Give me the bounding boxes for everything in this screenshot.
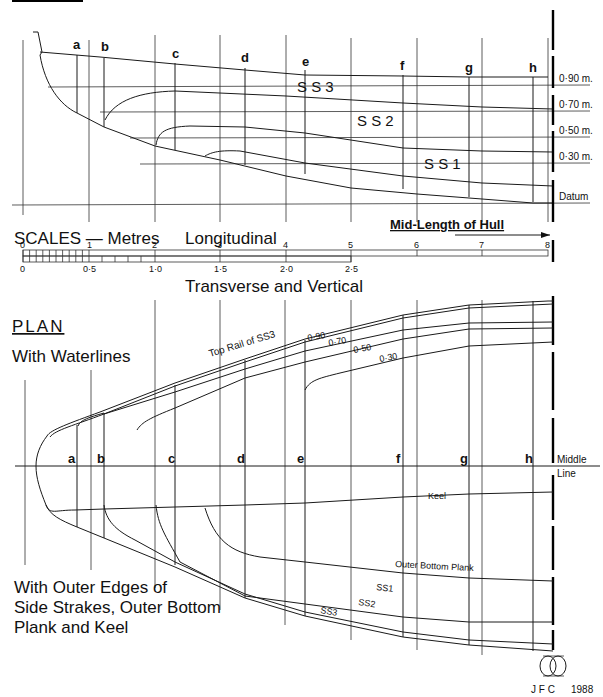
svg-text:7: 7 xyxy=(479,240,484,250)
ss2-plan-label: SS2 xyxy=(358,597,376,609)
transverse-scale-bar xyxy=(23,256,351,262)
monogram-right-ring-icon xyxy=(550,656,566,676)
station-b: b xyxy=(101,39,109,54)
middle-line-label-1: Middle xyxy=(557,454,587,465)
wl-090-label: 0·90 m. xyxy=(559,73,593,84)
ss1-label: S S 1 xyxy=(424,155,461,172)
keel-line xyxy=(46,492,553,511)
svg-text:3: 3 xyxy=(217,240,222,250)
station-a: a xyxy=(73,37,81,52)
svg-text:2: 2 xyxy=(152,240,157,250)
waterline-030 xyxy=(305,342,553,390)
svg-text:4: 4 xyxy=(283,240,288,250)
station-d: d xyxy=(241,50,249,65)
svg-text:0·5: 0·5 xyxy=(83,264,96,274)
svg-text:2·0: 2·0 xyxy=(280,264,293,274)
station-f: f xyxy=(400,58,405,73)
station-c: c xyxy=(172,46,179,61)
signature-mark: J F C 1988 xyxy=(531,656,594,695)
bottom-plank-edge xyxy=(205,151,553,186)
waterline-090 xyxy=(50,304,553,437)
station-e: e xyxy=(302,54,309,69)
longitudinal-scale-bar xyxy=(23,250,548,256)
station-h: h xyxy=(529,60,537,75)
outer-bottom-plank-line xyxy=(205,508,553,581)
midlength-label: Mid-Length of Hull xyxy=(390,217,504,232)
svg-text:2·5: 2·5 xyxy=(345,264,358,274)
keel-label: Keel xyxy=(428,491,446,501)
ss2-line xyxy=(104,505,553,644)
transverse-tick-labels: 0 0·5 1·0 1·5 2·0 2·5 xyxy=(20,264,358,274)
ss2-upper-edge xyxy=(105,91,553,120)
wl-050-plan-label: 0·50 xyxy=(353,342,372,355)
arrow-right-icon xyxy=(541,232,550,238)
wl-030-label: 0·30 m. xyxy=(559,151,593,162)
svg-text:a: a xyxy=(68,451,76,466)
station-g: g xyxy=(465,60,473,75)
svg-text:h: h xyxy=(525,451,533,466)
plan-stem xyxy=(36,436,47,505)
signature-initials: J F C xyxy=(531,684,555,695)
outer-bottom-plank-label: Outer Bottom Plank xyxy=(395,559,474,573)
svg-text:f: f xyxy=(396,451,401,466)
longitudinal-label: Longitudinal xyxy=(185,229,277,248)
scales-section: SCALES — Metres Longitudinal Mid-Length … xyxy=(14,217,550,296)
svg-text:c: c xyxy=(168,451,175,466)
stem-post xyxy=(33,32,42,55)
top-rail-label: Top Rail of SS3 xyxy=(207,328,277,359)
plan-view: PLAN With Waterlines xyxy=(12,300,600,655)
caption-line-3: Plank and Keel xyxy=(14,618,128,637)
wl-090-plan-label: 0·90 xyxy=(307,330,326,343)
signature-year: 1988 xyxy=(571,684,594,695)
svg-text:8: 8 xyxy=(545,240,550,250)
ss1-plan-label: SS1 xyxy=(376,582,394,594)
wl-070-label: 0·70 m. xyxy=(559,99,593,110)
caption-line-2: Side Strakes, Outer Bottom xyxy=(14,598,221,617)
ss3-label: S S 3 xyxy=(297,78,334,95)
datum-label: Datum xyxy=(559,191,588,202)
svg-text:b: b xyxy=(97,451,105,466)
elevation-view: a b c d e f g h 0·90 m. 0·70 m. 0·50 m. … xyxy=(12,32,593,222)
top-rail-ss3 xyxy=(47,301,553,436)
svg-text:6: 6 xyxy=(414,240,419,250)
hull-lines-drawing: a b c d e f g h 0·90 m. 0·70 m. 0·50 m. … xyxy=(0,0,603,697)
waterline-labels: 0·90 m. 0·70 m. 0·50 m. 0·30 m. Datum xyxy=(559,73,593,202)
svg-text:0: 0 xyxy=(20,264,25,274)
svg-text:5: 5 xyxy=(348,240,353,250)
svg-text:1·0: 1·0 xyxy=(149,264,162,274)
plan-title: PLAN xyxy=(12,317,64,336)
caption-line-1: With Outer Edges of xyxy=(14,578,167,597)
wl-030-plan-label: 0·30 xyxy=(379,351,398,364)
wl-070-plan-label: 0·70 xyxy=(328,335,347,348)
ss2-label: S S 2 xyxy=(357,112,394,129)
ss1-upper-edge xyxy=(156,126,553,152)
svg-text:d: d xyxy=(237,451,245,466)
elevation-waterlines xyxy=(12,85,590,205)
transverse-label: Transverse and Vertical xyxy=(185,277,363,296)
plan-station-labels: a b c d e f g h xyxy=(68,451,533,466)
plan-subtitle: With Waterlines xyxy=(12,347,130,366)
monogram-left-ring-icon xyxy=(540,656,556,676)
svg-text:e: e xyxy=(297,451,304,466)
middle-line-label-2: Line xyxy=(557,468,576,479)
wl-050-label: 0·50 m. xyxy=(559,125,593,136)
svg-text:1: 1 xyxy=(87,240,92,250)
svg-text:g: g xyxy=(460,451,468,466)
svg-text:1·5: 1·5 xyxy=(214,264,227,274)
svg-text:0: 0 xyxy=(20,240,25,250)
elevation-station-labels: a b c d e f g h xyxy=(73,37,537,75)
